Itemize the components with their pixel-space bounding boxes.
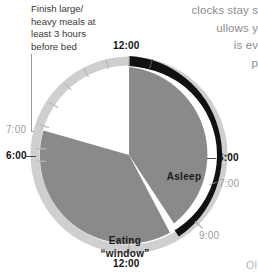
time-label-12-top: 12:00 [113, 40, 140, 51]
annotation-callout: Finish large/ heavy meals at least 3 hou… [31, 3, 123, 53]
time-label-dash-6-right [207, 158, 216, 159]
body-copy-tail: Ol [246, 259, 257, 271]
time-label-6-left: 6:00 [6, 150, 27, 161]
body-copy-line-1: clocks stay s [148, 2, 258, 20]
eating-window-label-line-1: Eating [88, 234, 162, 247]
clock-diagram: Asleep Eating “window” [26, 52, 232, 258]
time-label-12-bottom: 12:00 [113, 258, 140, 269]
time-label-6-right: 6:00 [218, 152, 239, 163]
body-copy-line-2: ullows y [148, 20, 258, 38]
page-root: clocks stay s ullows y is ev p Ol Finish… [0, 0, 258, 277]
time-label-9-bottom: 9:00 [199, 230, 219, 241]
asleep-label: Asleep [154, 170, 214, 183]
clock-face-svg [26, 52, 232, 258]
time-label-dash-6-left [26, 156, 36, 157]
time-label-7-left: 7:00 [6, 124, 26, 135]
annotation-line-2: heavy meals at [31, 16, 123, 29]
time-label-7-right: 7:00 [219, 178, 239, 189]
annotation-line-1: Finish large/ [31, 3, 123, 16]
eating-window-label: Eating “window” [88, 234, 162, 260]
annotation-line-3: least 3 hours [31, 28, 123, 41]
